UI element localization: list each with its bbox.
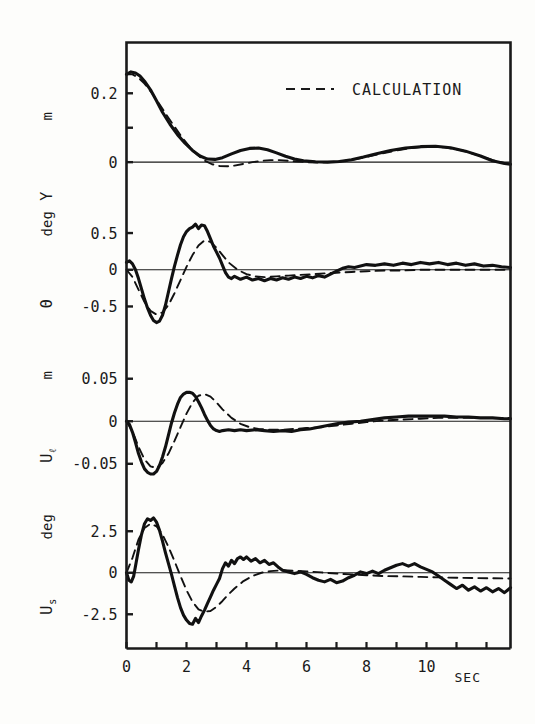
curve-calculation bbox=[127, 240, 511, 314]
y-axis-variable: Uℓ bbox=[38, 448, 58, 463]
y-axis-variable: Θ bbox=[38, 299, 56, 308]
y-tick-label: 0 bbox=[108, 564, 117, 582]
y-tick-label: 2.5 bbox=[90, 523, 117, 541]
y-axis-units: m bbox=[39, 112, 55, 120]
legend-label-calculation: CALCULATION bbox=[352, 81, 462, 99]
y-axis-variable: Us bbox=[38, 599, 58, 615]
y-tick-label: -2.5 bbox=[81, 606, 117, 624]
x-tick-label: 2 bbox=[182, 658, 191, 676]
x-axis-unit-label: SEC bbox=[455, 670, 481, 685]
curve-calculation bbox=[127, 524, 511, 612]
panel-U_s: 2.50-2.5Usdeg bbox=[38, 514, 511, 624]
y-tick-label: 0.5 bbox=[90, 225, 117, 243]
y-tick-label: 0 bbox=[108, 154, 117, 172]
y-axis-label-Theta: Θdeg bbox=[38, 211, 56, 308]
figure-container: 0.20Ym0.50-0.5Θdeg0.050-0.05Uℓm2.50-2.5U… bbox=[0, 0, 535, 724]
y-tick-label: 0.2 bbox=[90, 85, 117, 103]
y-axis-units: deg bbox=[39, 211, 55, 236]
x-tick-label: 10 bbox=[417, 658, 435, 676]
y-axis-label-Y: Ym bbox=[38, 112, 56, 201]
curve-calculation bbox=[127, 394, 511, 468]
x-tick-label: 6 bbox=[302, 658, 311, 676]
curve-measured bbox=[127, 518, 511, 624]
y-tick-label: -0.5 bbox=[81, 298, 117, 316]
legend: CALCULATION bbox=[286, 81, 462, 99]
x-tick-label: 4 bbox=[242, 658, 251, 676]
plot-frame bbox=[127, 43, 511, 649]
x-tick-label: 0 bbox=[122, 658, 131, 676]
panel-Theta: 0.50-0.5Θdeg bbox=[38, 211, 511, 323]
y-axis-units: deg bbox=[39, 514, 55, 539]
y-tick-label: 0.05 bbox=[81, 370, 117, 388]
y-axis-label-U_l: Uℓm bbox=[38, 371, 58, 463]
y-axis-label-U_s: Usdeg bbox=[38, 514, 58, 615]
y-axis-variable: Y bbox=[38, 192, 56, 201]
y-axis-variable-subscript: ℓ bbox=[47, 448, 58, 453]
y-tick-label: -0.05 bbox=[72, 455, 117, 473]
x-tick-label: 8 bbox=[362, 658, 371, 676]
panel-U_l: 0.050-0.05Uℓm bbox=[38, 370, 511, 474]
y-axis-units: m bbox=[39, 371, 55, 379]
multi-panel-time-history-chart: 0.20Ym0.50-0.5Θdeg0.050-0.05Uℓm2.50-2.5U… bbox=[0, 0, 535, 724]
curve-measured bbox=[127, 392, 511, 474]
y-axis-variable-subscript: s bbox=[47, 599, 58, 605]
y-tick-label: 0 bbox=[108, 413, 117, 431]
y-tick-label: 0 bbox=[108, 261, 117, 279]
